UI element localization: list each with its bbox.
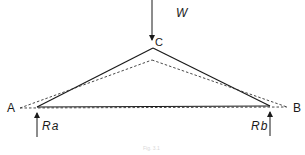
figure-caption: Fig. 3.1: [143, 146, 160, 151]
support-a-label: A: [7, 102, 15, 114]
member-cb: [153, 48, 270, 106]
original-truss: [37, 48, 270, 107]
load-label: W: [176, 7, 187, 19]
reaction-a-label: Ra: [42, 120, 59, 132]
member-ac: [37, 48, 153, 107]
support-b-label: B: [293, 102, 301, 114]
member-ab: [37, 106, 270, 107]
deflected-truss: [20, 60, 287, 108]
apex-label: C: [155, 37, 163, 48]
deflected-member-ac: [20, 60, 152, 108]
deflected-member-cb: [152, 60, 287, 107]
reaction-b-label: Rb: [251, 120, 268, 132]
